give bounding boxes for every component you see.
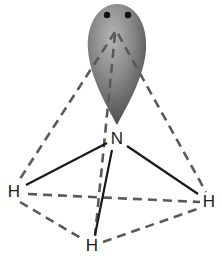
- lone-pair-orbital-lobe: [88, 4, 146, 125]
- ammonia-molecule-diagram: N H H H: [0, 0, 222, 277]
- lone-pair-electron-right: [125, 12, 131, 18]
- atom-label-n: N: [111, 129, 123, 148]
- edge-h1-h3: [20, 202, 84, 240]
- edge-h1-h2: [28, 194, 200, 202]
- atom-label-h3: H: [86, 236, 98, 255]
- bond-n-h2: [127, 146, 198, 194]
- bond-n-h3: [95, 150, 112, 235]
- lone-pair-electron-left: [104, 12, 110, 18]
- atom-label-h2: H: [203, 192, 215, 211]
- edge-h3-h2: [103, 208, 200, 242]
- atom-label-h1: H: [8, 182, 20, 201]
